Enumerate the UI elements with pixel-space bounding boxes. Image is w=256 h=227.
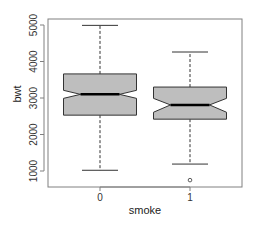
x-axis-title: smoke: [129, 204, 161, 216]
y-tick-label: 5000: [28, 13, 39, 36]
outlier-point: [188, 178, 192, 182]
y-axis: 10002000300040005000: [28, 13, 44, 182]
y-axis-title: bwt: [11, 85, 23, 102]
x-tick-label: 1: [187, 192, 193, 203]
y-tick-label: 4000: [28, 50, 39, 73]
box-1: [154, 87, 227, 119]
box-group: [64, 25, 227, 182]
boxplot-chart: 10002000300040005000 01 smoke bwt: [0, 0, 256, 227]
y-tick-label: 2000: [28, 123, 39, 146]
x-tick-label: 0: [97, 192, 103, 203]
x-axis: 01: [97, 187, 193, 203]
y-tick-label: 1000: [28, 159, 39, 182]
y-tick-label: 3000: [28, 86, 39, 109]
